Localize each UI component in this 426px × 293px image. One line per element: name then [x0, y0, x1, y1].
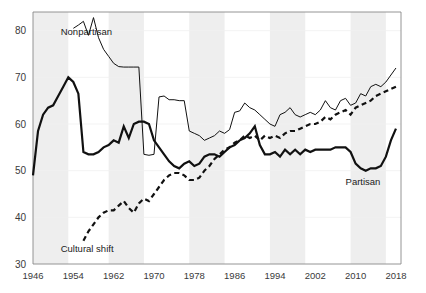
shaded-band	[351, 12, 386, 264]
chart-canvas: 1946195419621970197819861994200220102018…	[0, 0, 426, 293]
x-tick-label: 1970	[143, 270, 164, 281]
x-axis-tick-labels: 1946195419621970197819861994200220102018	[22, 270, 406, 281]
shaded-band	[109, 12, 144, 264]
y-tick-label: 40	[15, 212, 27, 223]
series-annotation-partisan: Partisan	[346, 176, 381, 187]
chart-figure: 1946195419621970197819861994200220102018…	[0, 0, 426, 293]
x-tick-label: 1986	[224, 270, 245, 281]
x-tick-label: 1978	[184, 270, 205, 281]
y-axis-tick-labels: 304050607080	[15, 25, 27, 269]
x-tick-label: 2002	[305, 270, 326, 281]
shaded-band	[270, 12, 305, 264]
x-tick-label: 1954	[63, 270, 84, 281]
x-tick-label: 1994	[264, 270, 285, 281]
series-annotation-nonpartisan: Nonpartisan	[61, 26, 112, 37]
shaded-band	[189, 12, 224, 264]
x-tick-label: 1946	[22, 270, 43, 281]
x-tick-label: 1962	[103, 270, 124, 281]
y-tick-label: 70	[15, 72, 27, 83]
y-tick-label: 30	[15, 259, 27, 270]
series-annotation-cultural-shift: Cultural shift	[61, 243, 114, 254]
y-tick-label: 50	[15, 165, 27, 176]
y-tick-label: 60	[15, 119, 27, 130]
x-tick-label: 2010	[345, 270, 366, 281]
x-tick-label: 2018	[385, 270, 406, 281]
y-tick-label: 80	[15, 25, 27, 36]
